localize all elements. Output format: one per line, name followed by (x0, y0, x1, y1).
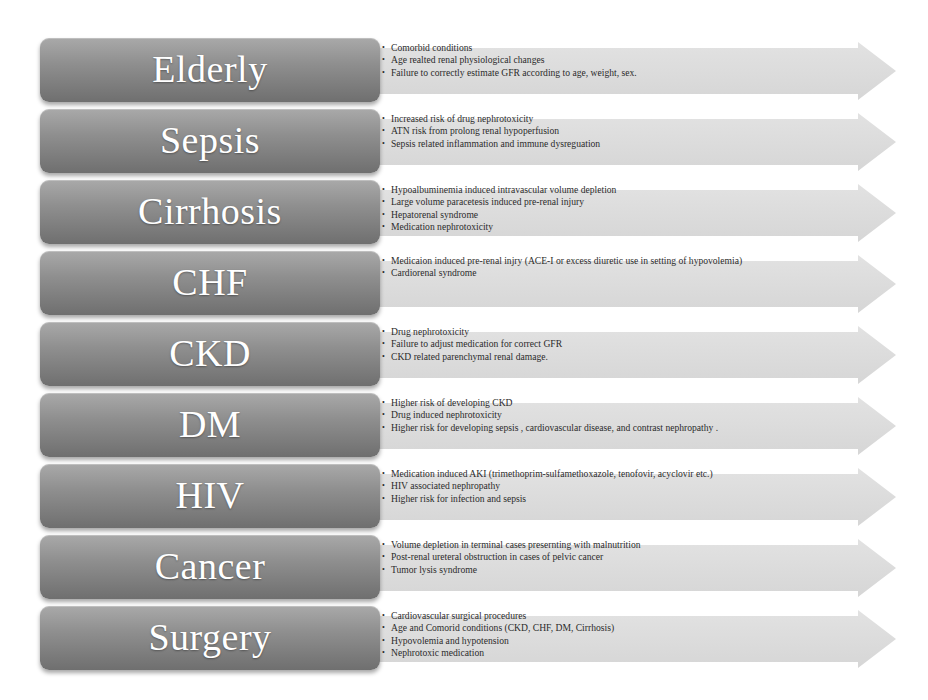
bullet-text: Comorbid conditions (391, 42, 472, 53)
bullet-item: •Cardiorenal syndrome (382, 267, 852, 279)
risk-factor-label: DM (179, 405, 241, 443)
risk-factor-row-hiv: HIV •Medication induced AKI (trimethopri… (0, 464, 928, 535)
bullet-icon: • (382, 635, 385, 647)
bullet-item: •Medicaion induced pre-renal injry (ACE-… (382, 255, 852, 267)
bullet-item: •Higher risk for infection and sepsis (382, 493, 852, 505)
bullet-text: Higher risk for developing sepsis , card… (391, 422, 718, 433)
risk-factor-diagram: Elderly •Comorbid conditions•Age realted… (0, 0, 928, 700)
bullet-item: •Drug nephrotoxicity (382, 326, 852, 338)
bullet-text: Higher risk of developing CKD (391, 397, 513, 408)
bullet-text: Failure to adjust medication for correct… (391, 338, 562, 349)
risk-factor-row-sepsis: Sepsis •Increased risk of drug nephrotox… (0, 109, 928, 180)
risk-factor-label: Cirrhosis (138, 192, 282, 230)
risk-factor-box: Cancer (40, 535, 380, 599)
bullet-item: •Increased risk of drug nephrotoxicity (382, 113, 852, 125)
bullet-icon: • (382, 67, 385, 79)
bullet-list: •Medicaion induced pre-renal injry (ACE-… (382, 255, 852, 280)
bullet-item: •Hepatorenal syndrome (382, 209, 852, 221)
risk-factor-label: Surgery (148, 618, 271, 656)
bullet-text: Large volume paracetesis induced pre-ren… (391, 196, 584, 207)
bullet-text: CKD related parenchymal renal damage. (391, 351, 548, 362)
risk-factor-row-elderly: Elderly •Comorbid conditions•Age realted… (0, 38, 928, 109)
risk-factor-row-cirrhosis: Cirrhosis •Hypoalbuminemia induced intra… (0, 180, 928, 251)
bullet-icon: • (382, 338, 385, 350)
bullet-text: Age realted renal physiological changes (391, 54, 544, 65)
bullet-item: •Medication nephrotoxicity (382, 221, 852, 233)
bullet-text: Cardiorenal syndrome (391, 267, 477, 278)
risk-factor-box: Elderly (40, 38, 380, 102)
bullet-icon: • (382, 138, 385, 150)
bullet-item: •ATN risk from prolong renal hypoperfusi… (382, 125, 852, 137)
risk-factor-row-cancer: Cancer •Volume depletion in terminal cas… (0, 535, 928, 606)
bullet-item: •Failure to correctly estimate GFR accor… (382, 67, 852, 79)
bullet-icon: • (382, 196, 385, 208)
bullet-list: •Volume depletion in terminal cases pres… (382, 539, 852, 576)
bullet-icon: • (382, 551, 385, 563)
bullet-text: Sepsis related inflammation and immune d… (391, 138, 600, 149)
bullet-icon: • (382, 493, 385, 505)
bullet-text: Hepatorenal syndrome (391, 209, 478, 220)
risk-factor-label: Elderly (152, 50, 267, 88)
bullet-item: •Post-renal ureteral obstruction in case… (382, 551, 852, 563)
risk-factor-label: Cancer (155, 547, 266, 585)
risk-factor-box: CHF (40, 251, 380, 315)
risk-factor-row-surgery: Surgery •Cardiovascular surgical procedu… (0, 606, 928, 677)
bullet-icon: • (382, 221, 385, 233)
bullet-icon: • (382, 397, 385, 409)
risk-factor-row-chf: CHF •Medicaion induced pre-renal injry (… (0, 251, 928, 322)
bullet-item: •Age realted renal physiological changes (382, 54, 852, 66)
bullet-item: •CKD related parenchymal renal damage. (382, 351, 852, 363)
bullet-item: •Drug induced nephrotoxicity (382, 409, 852, 421)
bullet-icon: • (382, 564, 385, 576)
bullet-item: •Medication induced AKI (trimethoprim-su… (382, 468, 852, 480)
bullet-text: Drug nephrotoxicity (391, 326, 469, 337)
bullet-item: •Tumor lysis syndrome (382, 564, 852, 576)
bullet-item: •Comorbid conditions (382, 42, 852, 54)
bullet-text: Post-renal ureteral obstruction in cases… (391, 551, 603, 562)
bullet-item: •Age and Comorid conditions (CKD, CHF, D… (382, 622, 852, 634)
bullet-icon: • (382, 480, 385, 492)
risk-factor-box: Sepsis (40, 109, 380, 173)
risk-factor-row-dm: DM •Higher risk of developing CKD•Drug i… (0, 393, 928, 464)
bullet-list: •Cardiovascular surgical procedures•Age … (382, 610, 852, 659)
risk-factor-label: Sepsis (160, 121, 260, 159)
bullet-text: Hypoalbuminemia induced intravascular vo… (391, 184, 616, 195)
bullet-text: Increased risk of drug nephrotoxicity (391, 113, 533, 124)
bullet-icon: • (382, 422, 385, 434)
bullet-list: •Comorbid conditions•Age realted renal p… (382, 42, 852, 79)
bullet-text: Age and Comorid conditions (CKD, CHF, DM… (391, 622, 614, 633)
bullet-icon: • (382, 42, 385, 54)
bullet-text: Medication induced AKI (trimethoprim-sul… (391, 468, 713, 479)
bullet-icon: • (382, 267, 385, 279)
bullet-text: Medicaion induced pre-renal injry (ACE-I… (391, 255, 742, 266)
bullet-item: •Sepsis related inflammation and immune … (382, 138, 852, 150)
bullet-icon: • (382, 647, 385, 659)
bullet-item: •Failure to adjust medication for correc… (382, 338, 852, 350)
bullet-icon: • (382, 351, 385, 363)
bullet-item: •Cardiovascular surgical procedures (382, 610, 852, 622)
risk-factor-label: CKD (169, 334, 251, 372)
bullet-icon: • (382, 409, 385, 421)
bullet-icon: • (382, 209, 385, 221)
risk-factor-label: HIV (175, 476, 244, 514)
bullet-list: •Hypoalbuminemia induced intravascular v… (382, 184, 852, 233)
bullet-icon: • (382, 125, 385, 137)
bullet-text: Tumor lysis syndrome (391, 564, 477, 575)
bullet-text: Hypovolemia and hypotension (391, 635, 509, 646)
bullet-text: Higher risk for infection and sepsis (391, 493, 526, 504)
risk-factor-box: CKD (40, 322, 380, 386)
bullet-icon: • (382, 184, 385, 196)
bullet-text: Failure to correctly estimate GFR accord… (391, 67, 637, 78)
bullet-item: •Large volume paracetesis induced pre-re… (382, 196, 852, 208)
bullet-icon: • (382, 326, 385, 338)
bullet-item: •Higher risk for developing sepsis , car… (382, 422, 852, 434)
bullet-icon: • (382, 610, 385, 622)
risk-factor-box: HIV (40, 464, 380, 528)
risk-factor-box: Surgery (40, 606, 380, 670)
bullet-item: •Higher risk of developing CKD (382, 397, 852, 409)
risk-factor-box: DM (40, 393, 380, 457)
bullet-text: ATN risk from prolong renal hypoperfusio… (391, 125, 559, 136)
bullet-list: •Drug nephrotoxicity•Failure to adjust m… (382, 326, 852, 363)
bullet-icon: • (382, 539, 385, 551)
bullet-text: Medication nephrotoxicity (391, 221, 493, 232)
